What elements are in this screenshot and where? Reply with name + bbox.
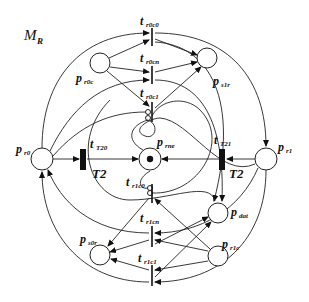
place-p-r1: p r1	[255, 140, 292, 170]
svg-text:rne: rne	[165, 142, 175, 150]
svg-text:p: p	[75, 71, 82, 85]
svg-text:t: t	[140, 14, 144, 28]
svg-text:T21: T21	[220, 140, 231, 148]
svg-text:p: p	[221, 237, 228, 251]
svg-text:dat: dat	[239, 212, 249, 220]
svg-text:t: t	[138, 251, 142, 265]
place-p-rne: p rne	[139, 135, 175, 170]
svg-text:r0: r0	[24, 149, 31, 157]
arc-tr0cn-ps1r	[155, 62, 197, 72]
svg-text:M: M	[23, 27, 38, 43]
svg-text:t: t	[90, 137, 94, 151]
svg-text:r1cn: r1cn	[146, 218, 159, 226]
svg-text:p: p	[15, 142, 22, 156]
place-p-s0r: p s0r	[79, 232, 110, 265]
transition-t-r0c0: t r0c0	[140, 14, 159, 46]
arc-pr1-tr1c1	[155, 170, 266, 282]
model-title: M R	[23, 27, 43, 46]
transition-t-r1c1: t r1c1	[138, 251, 157, 286]
place-p-r0: p r0	[15, 142, 53, 170]
arc-tr0c0-ps1r	[155, 39, 197, 55]
svg-text:r1c1: r1c1	[144, 258, 157, 266]
token	[147, 156, 153, 162]
svg-text:t: t	[140, 211, 144, 225]
svg-text:r0c1: r0c1	[146, 93, 159, 101]
arc-tr1cn-ps0r	[110, 240, 149, 252]
place-p-r1c: p r1c	[208, 237, 239, 266]
arc-tr0c1-ps1r	[155, 67, 201, 108]
svg-text:s1r: s1r	[220, 81, 230, 89]
arc-pr0c-tr0cn	[110, 67, 149, 72]
place-p-dat: p dat	[208, 203, 249, 223]
petri-net-diagram: M R	[0, 0, 309, 302]
svg-text:T20: T20	[96, 144, 108, 152]
svg-text:t: t	[140, 86, 144, 100]
svg-text:p: p	[230, 205, 237, 219]
svg-text:T2: T2	[229, 166, 244, 181]
place-p-s1r: p s1r	[197, 48, 230, 89]
svg-text:R: R	[36, 36, 43, 46]
svg-text:r1: r1	[286, 147, 292, 155]
svg-text:s0r: s0r	[87, 239, 97, 247]
svg-text:r0cn: r0cn	[146, 58, 159, 66]
transition-t-T21: t T21 T2	[214, 133, 244, 181]
svg-text:p: p	[212, 74, 219, 88]
svg-text:r0c0: r0c0	[146, 21, 159, 29]
arc-pr0-tr0cn	[50, 80, 149, 151]
svg-text:p: p	[277, 140, 284, 154]
svg-text:t: t	[126, 175, 130, 189]
svg-text:t: t	[140, 51, 144, 65]
place-p-r0c: p r0c	[75, 53, 110, 86]
svg-text:r1c: r1c	[230, 244, 239, 252]
transition-t-r0cn: t r0cn	[140, 51, 159, 84]
svg-text:T2: T2	[92, 166, 107, 181]
svg-text:r0c: r0c	[84, 78, 93, 86]
svg-text:r1c0: r1c0	[132, 182, 145, 190]
svg-text:p: p	[156, 135, 163, 149]
arc-pr1c-tr1cn	[155, 240, 208, 251]
svg-text:p: p	[79, 232, 86, 246]
